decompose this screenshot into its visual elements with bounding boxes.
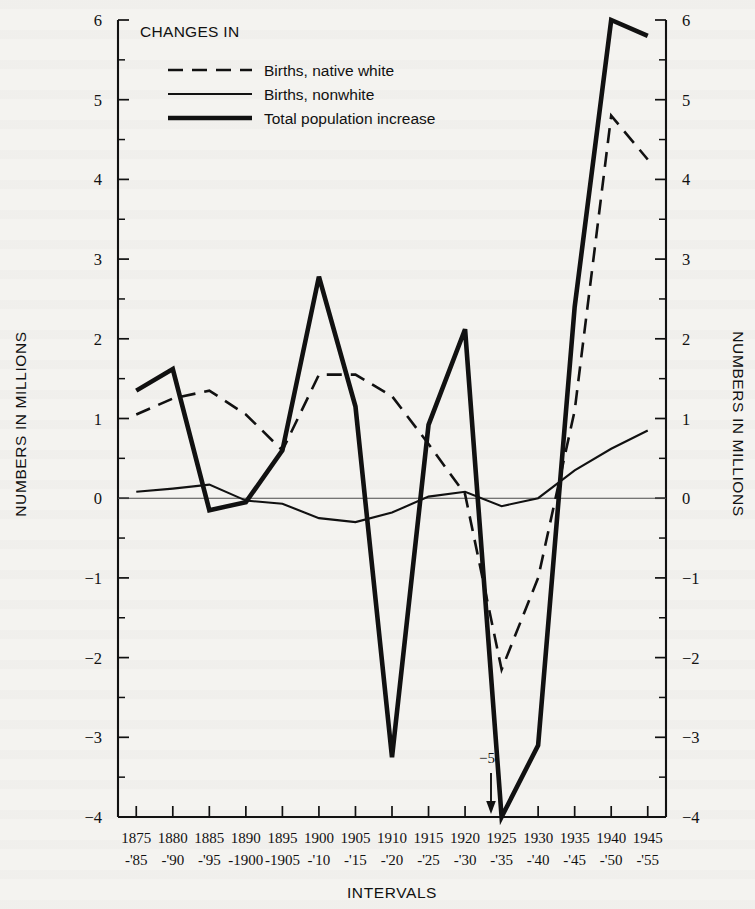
x-tick-label-end-year: -'55 [636,852,659,868]
y-tick-label-right: −4 [682,808,700,827]
x-tick-group [136,806,647,817]
y-tick-label-left: −1 [84,569,102,588]
series-group [136,20,647,817]
x-tick-label-end-year: -'15 [344,852,367,868]
y-tick-label-left: 4 [94,170,102,189]
y-tick-label-right: −1 [682,569,700,588]
y-tick-label-left: 5 [94,91,102,110]
legend-item-nonwhite: Births, nonwhite [168,86,374,103]
x-tick-label-end-year: -1905 [265,852,300,868]
x-tick-label-start-year: 1925 [487,830,517,846]
annotation-label: −5 [479,750,495,766]
y-tick-label-right: 2 [682,330,690,349]
chart-svg: −5 1875-'851880-'901885-'951890-19001895… [0,0,755,909]
x-tick-label-start-year: 1895 [267,830,297,846]
y-tick-label-left: −3 [84,728,102,747]
legend-label-nonwhite: Births, nonwhite [264,86,374,103]
y-tick-label-left: 1 [94,410,102,429]
y-tick-label-right: 0 [682,489,690,508]
series-total-population-increase [136,20,647,817]
x-tick-label-start-year: 1915 [414,830,444,846]
legend-label-total-population: Total population increase [264,110,435,127]
x-tick-label-end-year: -'50 [600,852,623,868]
x-tick-label-end-year: -'45 [563,852,586,868]
y-tick-label-left: 0 [94,489,102,508]
y-tick-label-left: 2 [94,330,102,349]
x-tick-label-start-year: 1875 [121,830,151,846]
x-tick-label-start-year: 1900 [304,830,334,846]
x-tick-label-end-year: -'40 [527,852,550,868]
y-tick-label-left: 6 [94,11,102,30]
annotation-minus-five: −5 [479,750,496,814]
down-arrow-icon [486,773,496,814]
legend-item-total-population: Total population increase [168,110,435,127]
x-tick-label-start-year: 1910 [377,830,407,846]
y-tick-label-right: −3 [682,728,700,747]
x-tick-label-start-year: 1930 [523,830,553,846]
x-tick-label-end-year: -'35 [490,852,513,868]
x-tick-label-end-year: -'95 [198,852,221,868]
y-axis-title-left: NUMBERS IN MILLIONS [12,331,29,516]
y-tick-label-right: 3 [682,250,690,269]
x-tick-label-end-year: -1900 [228,852,263,868]
x-tick-label-start-year: 1935 [560,830,590,846]
x-tick-label-end-year: -'20 [381,852,404,868]
y-tick-label-left: 3 [94,250,102,269]
legend-title: CHANGES IN [140,23,239,40]
x-tick-label-end-year: -'90 [161,852,184,868]
chart-figure: −5 1875-'851880-'901885-'951890-19001895… [0,0,755,909]
x-tick-label-end-year: -'85 [125,852,148,868]
x-tick-label-group: 1875-'851880-'901885-'951890-19001895-19… [121,830,662,868]
x-tick-label-end-year: -'25 [417,852,440,868]
y-tick-label-right: 1 [682,410,690,429]
x-tick-label-end-year: -'10 [308,852,331,868]
y-tick-label-group: 66554433221100−1−1−2−2−3−3−4−4 [84,11,699,827]
legend-item-native-white: Births, native white [168,62,394,79]
y-tick-label-right: 6 [682,11,690,30]
y-tick-label-right: 4 [682,170,690,189]
y-tick-label-right: −2 [682,649,700,668]
legend-label-native-white: Births, native white [264,62,394,79]
x-tick-label-start-year: 1945 [633,830,663,846]
x-tick-label-start-year: 1940 [596,830,626,846]
y-tick-label-left: −4 [84,808,102,827]
x-tick-label-start-year: 1905 [340,830,370,846]
y-tick-label-left: −2 [84,649,102,668]
x-tick-label-start-year: 1890 [231,830,261,846]
x-tick-label-end-year: -'30 [454,852,477,868]
series-births-native-white [136,116,647,670]
x-tick-label-start-year: 1920 [450,830,480,846]
y-axis-title-right: NUMBERS IN MILLIONS [730,331,747,516]
x-tick-label-start-year: 1885 [194,830,224,846]
x-tick-label-start-year: 1880 [158,830,188,846]
y-tick-group [118,20,666,817]
y-tick-label-right: 5 [682,91,690,110]
legend: CHANGES IN Births, native white Births, … [140,23,435,127]
axes-group [118,20,666,817]
x-axis-title: INTERVALS [347,884,437,901]
